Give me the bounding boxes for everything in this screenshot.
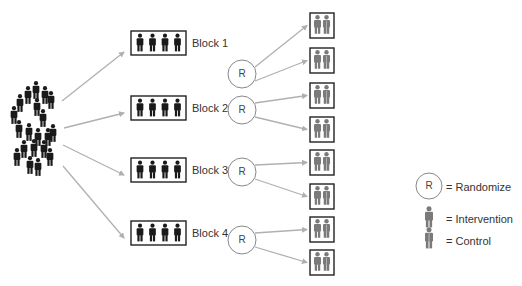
arrow [255, 96, 307, 104]
population-crowd [11, 81, 57, 176]
randomized-groups [255, 13, 334, 275]
arrow [63, 166, 124, 238]
person-icon [34, 98, 41, 116]
arrow [255, 26, 307, 68]
arrow [255, 230, 307, 234]
group-box [310, 150, 334, 175]
arrow [255, 247, 307, 263]
block-randomization-diagram [0, 0, 522, 286]
blocks [131, 31, 256, 254]
arrow [255, 179, 307, 197]
arrows [62, 52, 124, 238]
person-icon [14, 148, 21, 166]
arrow [255, 61, 307, 82]
person-icon [16, 120, 23, 138]
group-box [310, 184, 334, 209]
person-icon [40, 109, 47, 127]
person-icon [17, 94, 24, 112]
legend-intervention-label: = Intervention [446, 213, 513, 225]
arrow [62, 52, 124, 101]
randomize-symbol: R [228, 166, 256, 178]
person-icon [35, 128, 42, 146]
person-icon [47, 148, 54, 166]
legend-control-icon [425, 227, 433, 248]
randomize-symbol: R [228, 68, 256, 80]
arrow [63, 145, 124, 175]
arrow [64, 113, 124, 128]
group-box [310, 250, 334, 275]
arrow [255, 117, 307, 130]
group-box [310, 217, 334, 242]
legend-randomize-symbol: R [415, 180, 443, 192]
block-label: Block 2 [192, 102, 228, 114]
person-icon [25, 86, 32, 104]
legend-intervention-icon [425, 206, 433, 227]
person-icon [42, 86, 49, 104]
legend-randomize-label: = Randomize [446, 181, 511, 193]
randomize-symbol: R [228, 104, 256, 116]
person-icon [26, 123, 33, 141]
person-icon [27, 156, 34, 174]
legend-control-label: = Control [446, 235, 491, 247]
group-box [310, 117, 334, 142]
block-label: Block 3 [192, 164, 228, 176]
randomize-symbol: R [228, 234, 256, 246]
group-box [310, 48, 334, 73]
person-icon [35, 158, 42, 176]
block-label: Block 4 [192, 227, 228, 239]
block-label: Block 1 [192, 37, 228, 49]
group-box [310, 13, 334, 38]
person-icon [48, 91, 55, 109]
person-icon [21, 140, 28, 158]
arrow [255, 163, 307, 166]
group-box [310, 83, 334, 108]
person-icon [50, 124, 57, 142]
person-icon [11, 106, 18, 124]
person-icon [33, 81, 40, 99]
